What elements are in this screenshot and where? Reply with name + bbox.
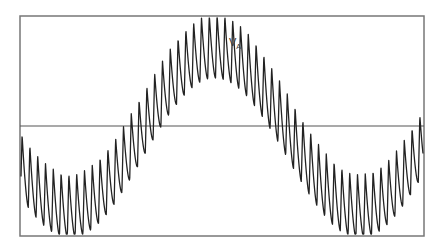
waveform-chart <box>0 0 443 246</box>
va-label-sub: A <box>236 43 241 50</box>
va-label: VA <box>229 36 241 50</box>
